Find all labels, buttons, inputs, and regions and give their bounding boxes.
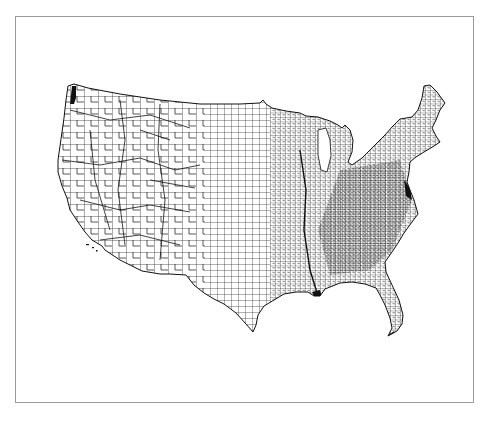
channel-islands <box>86 244 98 252</box>
county-grid <box>0 0 494 424</box>
us-county-map <box>0 0 494 424</box>
